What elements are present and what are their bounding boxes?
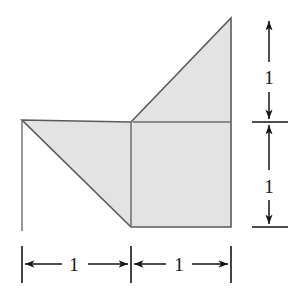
bottom-right-dimension-label: 1 bbox=[174, 254, 184, 275]
figure-container: 1 1 1 1 bbox=[0, 0, 293, 294]
geometry-figure: 1 1 1 1 bbox=[0, 0, 293, 294]
bottom-left-dimension-label: 1 bbox=[69, 254, 79, 275]
right-bottom-dimension-label: 1 bbox=[264, 176, 274, 197]
right-top-dimension-label: 1 bbox=[264, 67, 274, 88]
right-dimension-group: 1 1 bbox=[252, 21, 288, 227]
bottom-dimension-group: 1 1 bbox=[22, 246, 231, 283]
